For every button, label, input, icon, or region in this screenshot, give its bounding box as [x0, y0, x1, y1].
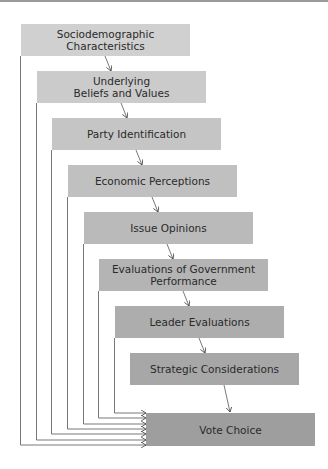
box-vote-choice: Vote Choice: [146, 413, 315, 446]
box-label: Issue Opinions: [130, 222, 206, 234]
box-issue-opinions: Issue Opinions: [84, 212, 253, 244]
box-label: Evaluations of Government: [112, 263, 255, 275]
box-beliefs-values: UnderlyingBeliefs and Values: [37, 71, 206, 103]
box-label: Party Identification: [87, 128, 186, 140]
box-strategic-considerations: Strategic Considerations: [130, 353, 299, 385]
box-label: Sociodemographic: [57, 28, 154, 40]
arrow-8-9: [224, 385, 230, 412]
arrow-3-4: [136, 150, 142, 165]
box-sociodemographic: SociodemographicCharacteristics: [21, 24, 190, 56]
arrow-1-2: [105, 56, 111, 71]
box-leader-evaluations: Leader Evaluations: [115, 306, 284, 338]
box-party-identification: Party Identification: [52, 118, 221, 150]
box-label: Beliefs and Values: [74, 87, 170, 99]
box-label: Vote Choice: [199, 424, 261, 436]
arrow-7-8: [199, 338, 205, 353]
box-label: Economic Perceptions: [95, 175, 210, 187]
arrow-6-7: [183, 291, 189, 306]
box-label: Characteristics: [57, 40, 154, 52]
box-economic-perceptions: Economic Perceptions: [68, 165, 237, 197]
box-government-performance: Evaluations of GovernmentPerformance: [99, 259, 268, 291]
box-label: Strategic Considerations: [150, 363, 279, 375]
box-label: Leader Evaluations: [149, 316, 249, 328]
arrow-5-6: [167, 244, 173, 259]
arrow-2-3: [121, 103, 127, 118]
box-label: Underlying: [74, 75, 170, 87]
box-label: Performance: [112, 275, 255, 287]
arrow-4-5: [152, 197, 158, 212]
